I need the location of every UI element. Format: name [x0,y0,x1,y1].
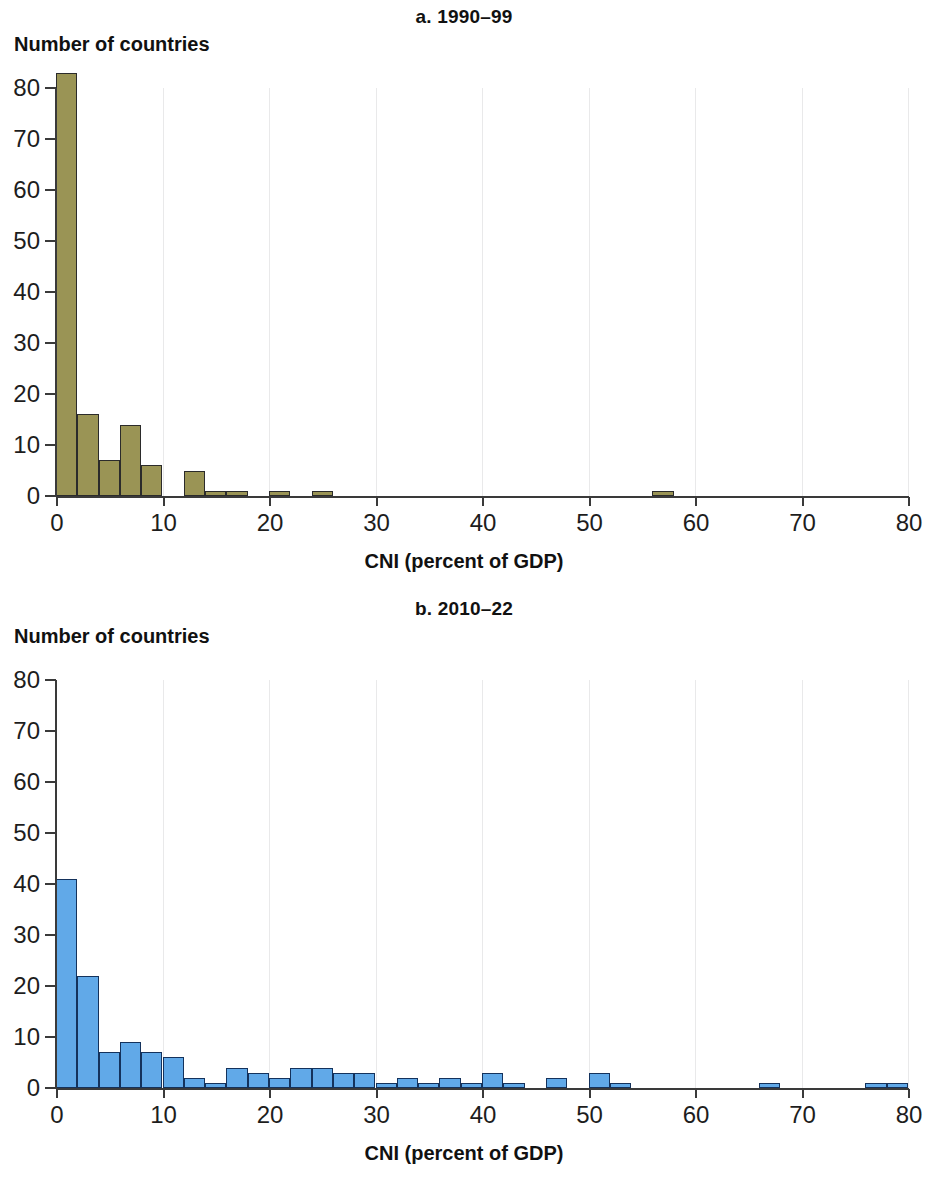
y-axis-tick-label: 50 [0,819,40,847]
y-axis-tick-label: 0 [0,1074,40,1102]
x-axis-tick-label: 0 [27,509,87,537]
gridline [802,88,803,496]
x-axis-tick [56,1089,58,1098]
x-axis-tick [589,497,591,506]
gridline [269,680,270,1088]
x-axis-tick [163,1089,165,1098]
x-axis-tick [163,497,165,506]
x-axis-tick [589,1089,591,1098]
x-axis-tick [802,1089,804,1098]
histogram-bar [120,425,141,496]
y-axis-tick-label: 40 [0,278,40,306]
x-axis-tick-label: 80 [879,509,928,537]
gridline [482,88,483,496]
x-axis-tick [695,1089,697,1098]
histogram-bar [589,1073,610,1088]
x-axis-tick-label: 20 [240,1101,300,1129]
panel-a-title: a. 1990–99 [0,6,928,28]
histogram-bar [312,1068,333,1088]
x-axis-tick-label: 50 [560,1101,620,1129]
gridline [695,680,696,1088]
histogram-bar [120,1042,141,1088]
y-axis-tick [45,679,56,681]
gridline [163,88,164,496]
y-axis-tick [45,832,56,834]
x-axis-tick [269,1089,271,1098]
x-axis-tick-label: 10 [134,1101,194,1129]
gridline [695,88,696,496]
histogram-bar [397,1078,418,1088]
histogram-bar [333,1073,354,1088]
y-axis-tick [45,138,56,140]
histogram-bar [141,465,162,496]
histogram-bar [248,1073,269,1088]
panel-b-title: b. 2010–22 [0,598,928,620]
histogram-bar [141,1052,162,1088]
histogram-bar [163,1057,184,1088]
y-axis-tick-label: 20 [0,380,40,408]
x-axis-tick [482,497,484,506]
y-axis-tick [45,87,56,89]
panel-b-y-axis-title: Number of countries [14,625,210,648]
y-axis-tick [45,934,56,936]
x-axis-tick [482,1089,484,1098]
y-axis-tick [45,781,56,783]
chart-panel-b: b. 2010–22 Number of countries 010203040… [0,592,928,1184]
x-axis-tick-label: 50 [560,509,620,537]
y-axis-tick-label: 70 [0,717,40,745]
y-axis-tick [45,730,56,732]
y-axis-tick [45,240,56,242]
y-axis-tick-label: 50 [0,227,40,255]
histogram-bar [439,1078,460,1088]
x-axis-tick [269,497,271,506]
histogram-bar [77,414,98,496]
histogram-bar [546,1078,567,1088]
y-axis-tick [45,393,56,395]
gridline [908,88,909,496]
panel-b-plot-area [56,680,908,1088]
chart-panel-a: a. 1990–99 Number of countries 010203040… [0,0,928,592]
y-axis-tick-label: 20 [0,972,40,1000]
x-axis-tick [695,497,697,506]
y-axis-tick-label: 10 [0,431,40,459]
histogram-bar [184,1078,205,1088]
y-axis-tick [45,342,56,344]
y-axis-tick-label: 30 [0,329,40,357]
y-axis-tick-label: 40 [0,870,40,898]
gridline [589,88,590,496]
panel-a-x-axis-title: CNI (percent of GDP) [0,550,928,573]
histogram-bar [77,976,98,1088]
gridline [482,680,483,1088]
y-axis-tick [45,883,56,885]
x-axis-tick-label: 10 [134,509,194,537]
x-axis-tick-label: 30 [347,1101,407,1129]
histogram-bar [99,460,120,496]
histogram-bar [184,471,205,497]
y-axis-tick [45,189,56,191]
histogram-bar [290,1068,311,1088]
x-axis-tick-label: 60 [666,1101,726,1129]
y-axis-tick [45,985,56,987]
panel-a-y-axis-title: Number of countries [14,33,210,56]
x-axis-tick-label: 20 [240,509,300,537]
y-axis-tick-label: 80 [0,74,40,102]
histogram-bar [99,1052,120,1088]
y-axis-tick-label: 60 [0,768,40,796]
gridline [802,680,803,1088]
y-axis-tick-label: 60 [0,176,40,204]
panel-b-x-axis-title: CNI (percent of GDP) [0,1142,928,1165]
histogram-bar [226,1068,247,1088]
y-axis-tick-label: 0 [0,482,40,510]
x-axis-tick-label: 0 [27,1101,87,1129]
x-axis-tick-label: 40 [453,509,513,537]
gridline [376,680,377,1088]
x-axis-tick-label: 80 [879,1101,928,1129]
y-axis-tick-label: 80 [0,666,40,694]
gridline [269,88,270,496]
x-axis-tick-label: 30 [347,509,407,537]
x-axis-tick-label: 70 [773,509,833,537]
y-axis-tick [45,291,56,293]
x-axis-tick [376,1089,378,1098]
x-axis-tick-label: 40 [453,1101,513,1129]
gridline [589,680,590,1088]
